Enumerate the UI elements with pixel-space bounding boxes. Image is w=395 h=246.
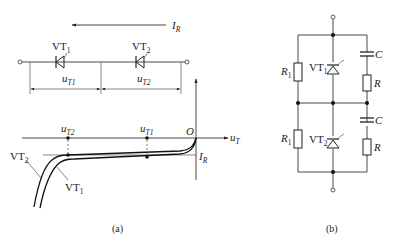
capacitor-top-icon [360, 52, 374, 56]
resistor-r-bottom-icon [363, 139, 371, 155]
thyristor-vt1-icon [327, 60, 344, 75]
label-c-top: C [375, 48, 383, 60]
curve-label-vt1: VT1 [65, 181, 84, 196]
caption-a: (a) [112, 223, 123, 235]
iv-graph: O uT IR uT2 uT1 VT2 VT1 [10, 79, 241, 208]
label-r1-bottom: R1 [280, 132, 292, 147]
label-c-bottom: C [375, 114, 383, 126]
thyristor-vt1-icon [56, 53, 67, 68]
junction-dot [296, 101, 300, 105]
label-vt2-b: VT2 [309, 133, 328, 148]
terminal-left [18, 60, 22, 64]
x-axis-label: uT [230, 131, 241, 146]
junction-dot [331, 33, 335, 37]
curve-label-vt2: VT2 [10, 150, 29, 165]
point-ut1-curve [145, 155, 149, 159]
terminal-bottom [331, 188, 335, 192]
ir-marker-label: IR [198, 150, 208, 165]
label-point-ut2: uT2 [61, 122, 75, 137]
curve-vt1 [40, 138, 196, 208]
curve-vt2 [34, 138, 196, 207]
series-circuit: VT1 VT2 uT1 uT2 [18, 40, 189, 94]
leader-vt1 [57, 167, 68, 180]
resistor-r-top-icon [363, 75, 371, 91]
terminal-right [185, 60, 189, 64]
label-vt2: VT2 [132, 40, 151, 55]
label-ut2: uT2 [137, 72, 151, 87]
thyristor-vt2-icon [136, 53, 147, 68]
label-r-top: R [373, 77, 381, 89]
junction-dot [331, 101, 335, 105]
resistor-r1-bottom-icon [294, 130, 302, 148]
label-r-bottom: R [373, 141, 381, 153]
current-label: IR [171, 19, 181, 34]
junction-dot [331, 170, 335, 174]
caption-b: (b) [326, 223, 338, 235]
figure-canvas: IR VT1 VT2 [0, 0, 395, 246]
terminal-top [331, 15, 335, 19]
junction-dot [365, 101, 369, 105]
resistor-r1-top-icon [294, 63, 302, 81]
label-point-ut1: uT1 [140, 122, 153, 137]
thyristor-vt2-icon [327, 134, 344, 149]
figure-a: IR VT1 VT2 [10, 19, 241, 235]
point-ut2-curve [66, 153, 70, 157]
label-vt1-b: VT1 [309, 61, 328, 76]
current-arrow: IR [72, 19, 181, 34]
label-r1-top: R1 [280, 65, 292, 80]
figure-b: R1 R1 VT1 VT2 C C R [280, 15, 383, 235]
label-vt1: VT1 [52, 40, 71, 55]
origin-label: O [186, 125, 194, 137]
label-ut1: uT1 [62, 72, 75, 87]
